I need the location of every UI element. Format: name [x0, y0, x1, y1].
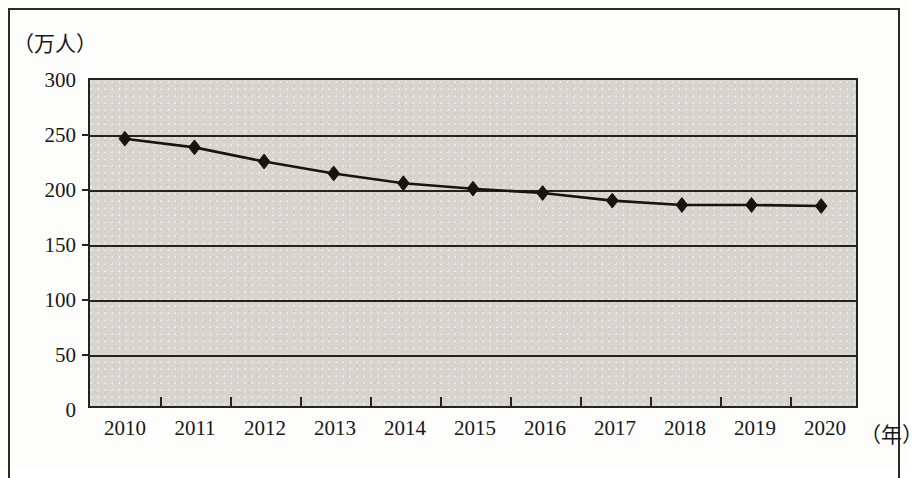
line-series — [90, 80, 856, 406]
data-point-marker — [328, 166, 340, 181]
data-point-marker — [606, 193, 618, 208]
x-axis-unit-label: （年） — [860, 418, 914, 448]
plot-area: 050100150200250300 201020112012201320142… — [88, 78, 858, 408]
data-point-marker — [467, 181, 479, 196]
data-point-marker — [676, 198, 688, 213]
x-tick-label: 2015 — [454, 416, 496, 441]
x-tick-label: 2018 — [664, 416, 706, 441]
y-axis-unit-label: （万人） — [13, 27, 97, 57]
x-tick-label: 2019 — [734, 416, 776, 441]
x-tick-label: 2011 — [174, 416, 215, 441]
y-tick-label: 100 — [45, 288, 77, 313]
data-point-marker — [258, 154, 270, 169]
data-point-marker — [537, 186, 549, 201]
data-point-marker — [746, 198, 758, 213]
y-tick-mark — [82, 189, 90, 191]
data-point-marker — [398, 176, 410, 191]
x-tick-label: 2016 — [524, 416, 566, 441]
x-tick-label: 2017 — [594, 416, 636, 441]
y-tick-mark — [82, 354, 90, 356]
y-tick-label: 200 — [45, 178, 77, 203]
y-tick-label: 50 — [55, 343, 76, 368]
x-tick-label: 2012 — [244, 416, 286, 441]
data-point-marker — [119, 131, 131, 146]
y-tick-label: 250 — [45, 123, 77, 148]
y-tick-mark — [82, 244, 90, 246]
series-markers — [119, 131, 827, 213]
x-tick-label: 2013 — [314, 416, 356, 441]
data-point-marker — [189, 140, 201, 155]
y-tick-mark — [82, 299, 90, 301]
data-point-marker — [815, 199, 827, 214]
x-tick-label: 2020 — [804, 416, 846, 441]
y-tick-label: 300 — [45, 68, 77, 93]
x-tick-label: 2010 — [104, 416, 146, 441]
y-tick-label: 150 — [45, 233, 77, 258]
y-tick-mark — [82, 134, 90, 136]
x-tick-label: 2014 — [384, 416, 426, 441]
y-tick-label: 0 — [66, 398, 77, 423]
